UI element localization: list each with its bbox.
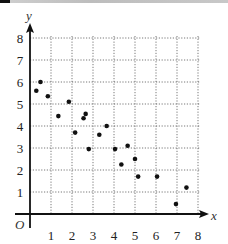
data-point: [73, 130, 78, 135]
y-tick-label: 7: [17, 53, 24, 68]
data-point: [113, 147, 118, 152]
grid-lines: [30, 36, 200, 214]
origin-label: O: [15, 217, 25, 232]
data-point: [184, 185, 189, 190]
y-axis-label: y: [24, 8, 32, 23]
x-tick-label: 6: [153, 228, 160, 243]
data-point: [133, 157, 138, 162]
tick-labels: 1234567812345678: [17, 31, 202, 243]
y-tick-label: 5: [17, 97, 24, 112]
data-point: [83, 112, 88, 117]
data-points: [34, 80, 189, 207]
y-tick-label: 6: [17, 75, 24, 90]
x-tick-label: 7: [174, 228, 181, 243]
x-axis-label: x: [210, 208, 217, 223]
scatter-plot: 1234567812345678 x y O: [0, 0, 228, 244]
y-tick-label: 8: [17, 31, 24, 46]
y-tick-label: 4: [17, 119, 24, 134]
data-point: [67, 100, 72, 105]
data-point: [174, 202, 179, 207]
data-point: [119, 162, 124, 167]
y-tick-label: 3: [17, 141, 24, 156]
data-point: [97, 133, 102, 138]
x-tick-label: 2: [69, 228, 76, 243]
data-point: [56, 114, 61, 119]
axes: [15, 23, 209, 228]
y-tick-label: 1: [17, 185, 24, 200]
data-point: [125, 144, 130, 149]
data-point: [104, 124, 109, 129]
data-point: [136, 174, 141, 179]
x-tick-label: 4: [111, 228, 118, 243]
data-point: [38, 80, 43, 85]
x-tick-label: 8: [195, 228, 202, 243]
data-point: [34, 89, 39, 94]
data-point: [87, 147, 92, 152]
data-point: [155, 174, 160, 179]
x-tick-label: 3: [90, 228, 97, 243]
data-point: [46, 94, 51, 99]
x-tick-label: 5: [132, 228, 139, 243]
x-tick-label: 1: [48, 228, 55, 243]
data-point: [81, 116, 86, 121]
y-tick-label: 2: [17, 163, 24, 178]
